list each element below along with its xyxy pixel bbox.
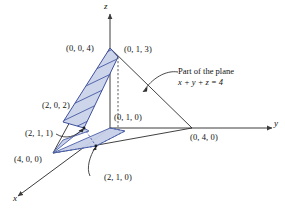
- vertex-dot-2-1-1: [83, 127, 86, 130]
- label-point-0-4-0: (0, 4, 0): [190, 133, 218, 142]
- x-axis-label: x: [13, 194, 17, 203]
- plane-annotation: Part of the plane x + y + z = 4: [178, 66, 234, 89]
- label-point-0-1-0: (0, 1, 0): [114, 113, 142, 122]
- label-point-0-1-3: (0, 1, 3): [124, 45, 152, 54]
- label-point-2-1-0: (2, 1, 0): [104, 173, 132, 182]
- label-point-4-0-0: (4, 0, 0): [14, 155, 42, 164]
- annotation-leader-curve: [143, 72, 178, 92]
- label-point-0-0-4: (0, 0, 4): [66, 44, 94, 53]
- plane-region-figure: z y x (0, 0, 4) (0, 1, 3) (2, 0, 2) (0, …: [0, 0, 285, 210]
- y-axis-label: y: [274, 119, 278, 128]
- label-point-2-1-1: (2, 1, 1): [25, 129, 53, 138]
- label-point-2-0-2: (2, 0, 2): [42, 101, 70, 110]
- leader-2-1-1: [56, 130, 82, 137]
- z-axis-label: z: [104, 2, 108, 11]
- vertex-dot-2-1-0: [95, 145, 98, 148]
- leader-2-1-0: [88, 148, 95, 176]
- annotation-line-2: x + y + z = 4: [178, 77, 234, 88]
- annotation-line-1: Part of the plane: [178, 66, 234, 77]
